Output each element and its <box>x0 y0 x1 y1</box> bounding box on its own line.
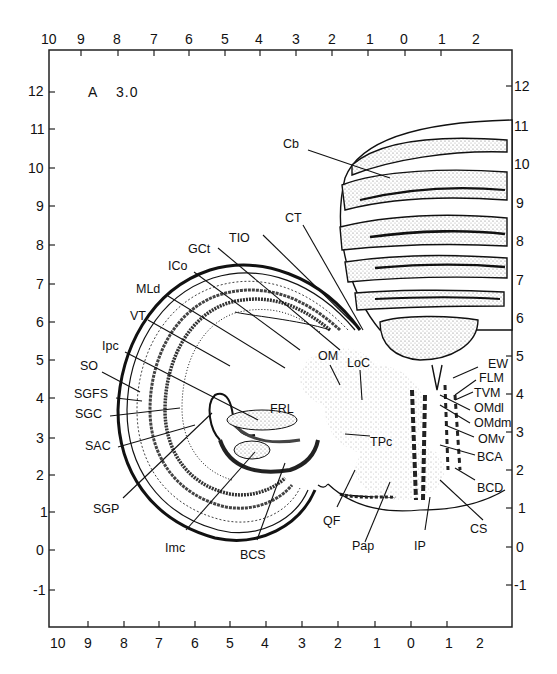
bottom-tick-label: 5 <box>226 636 234 650</box>
top-tick-label: 4 <box>255 32 263 46</box>
bottom-tick-label: 6 <box>191 636 199 650</box>
right-tick-label: 4 <box>516 387 524 401</box>
label-CS: CS <box>470 523 487 536</box>
bottom-tick-label: 3 <box>298 636 306 650</box>
right-tick-label: 9 <box>516 196 524 210</box>
plate-value: 3.0 <box>116 84 138 100</box>
label-ICo: ICo <box>168 260 187 273</box>
left-tick-label: 4 <box>36 391 44 405</box>
label-SGC: SGC <box>75 408 102 421</box>
left-tick-label: 5 <box>36 353 44 367</box>
label-VT: VT <box>130 310 146 323</box>
right-tick-label: 0 <box>516 540 524 554</box>
top-tick-label: 3 <box>292 32 300 46</box>
left-tick-label: 1 <box>40 505 48 519</box>
label-SGFS: SGFS <box>74 388 108 401</box>
left-tick-label: -1 <box>33 583 45 597</box>
label-Cb: Cb <box>283 138 299 151</box>
label-SO: SO <box>80 360 98 373</box>
right-tick-label: 12 <box>514 79 530 93</box>
right-tick-label: 2 <box>516 463 524 477</box>
bottom-tick-label: 2 <box>334 636 342 650</box>
right-tick-label: 6 <box>516 311 524 325</box>
bottom-tick-label: 10 <box>50 636 66 650</box>
label-BCA: BCA <box>477 451 503 464</box>
brain-section-drawing <box>0 0 557 674</box>
plate-letter: A <box>88 84 98 100</box>
left-tick-label: 10 <box>28 161 44 175</box>
label-Pap: Pap <box>352 540 374 553</box>
bottom-tick-label: 2 <box>476 636 484 650</box>
label-QF: QF <box>323 515 340 528</box>
bottom-tick-label: 1 <box>373 636 381 650</box>
atlas-plate: A 3.0 10 9 8 7 6 5 4 3 2 1 0 1 2 10 9 8 … <box>0 0 557 674</box>
label-OM: OM <box>318 350 338 363</box>
top-tick-label: 5 <box>221 32 229 46</box>
label-IP: IP <box>414 540 426 553</box>
label-EW: EW <box>488 358 508 371</box>
right-tick-label: 8 <box>516 234 524 248</box>
left-tick-label: 8 <box>36 238 44 252</box>
cerebellum <box>340 120 512 390</box>
top-tick-label: 7 <box>150 32 158 46</box>
label-TPc: TPc <box>370 436 392 449</box>
label-OMv: OMv <box>478 433 504 446</box>
label-MLd: MLd <box>136 283 160 296</box>
bottom-tick-label: 9 <box>84 636 92 650</box>
left-tick-label: 3 <box>36 431 44 445</box>
top-ticks <box>81 50 441 56</box>
left-tick-label: 7 <box>36 277 44 291</box>
label-BCD: BCD <box>477 482 503 495</box>
label-BCS: BCS <box>240 549 266 562</box>
label-Imc: Imc <box>165 542 185 555</box>
top-tick-label: 8 <box>113 32 121 46</box>
label-FLM: FLM <box>479 372 504 385</box>
label-FRL: FRL <box>270 403 294 416</box>
bottom-tick-label: 7 <box>155 636 163 650</box>
right-tick-label: 1 <box>518 501 526 515</box>
left-tick-label: 12 <box>28 84 44 98</box>
right-tick-label: 5 <box>516 349 524 363</box>
label-TIO: TIO <box>229 232 250 245</box>
right-tick-label: 11 <box>514 119 529 133</box>
top-tick-label: 0 <box>400 32 408 46</box>
top-tick-label: 1 <box>366 32 374 46</box>
label-CT: CT <box>285 212 302 225</box>
bottom-tick-label: 8 <box>120 636 128 650</box>
label-OMdl: OMdl <box>474 402 504 415</box>
top-tick-label: 10 <box>41 32 57 46</box>
right-tick-label: 3 <box>516 425 524 439</box>
bottom-ticks <box>88 621 447 627</box>
left-tick-label: 11 <box>30 122 45 136</box>
bottom-tick-label: 4 <box>261 636 269 650</box>
bottom-tick-label: 1 <box>445 636 453 650</box>
label-GCt: GCt <box>188 243 210 256</box>
left-ticks <box>49 92 55 590</box>
top-tick-label: 1 <box>438 32 446 46</box>
bottom-tick-label: 0 <box>407 636 415 650</box>
left-tick-label: 0 <box>36 543 44 557</box>
top-tick-label: 9 <box>77 32 85 46</box>
left-tick-label: 2 <box>36 468 44 482</box>
top-tick-label: 6 <box>185 32 193 46</box>
top-tick-label: 2 <box>472 32 480 46</box>
left-tick-label: 9 <box>36 199 44 213</box>
label-LoC: LoC <box>347 357 370 370</box>
label-SGP: SGP <box>93 503 119 516</box>
label-SAC: SAC <box>85 440 111 453</box>
label-TVM: TVM <box>474 387 500 400</box>
right-tick-label: 7 <box>516 273 524 287</box>
left-tick-label: 6 <box>36 315 44 329</box>
right-tick-label: -1 <box>514 578 526 592</box>
right-tick-label: 10 <box>514 157 530 171</box>
label-Ipc: Ipc <box>102 340 119 353</box>
label-OMdm: OMdm <box>474 417 512 430</box>
top-tick-label: 2 <box>328 32 336 46</box>
